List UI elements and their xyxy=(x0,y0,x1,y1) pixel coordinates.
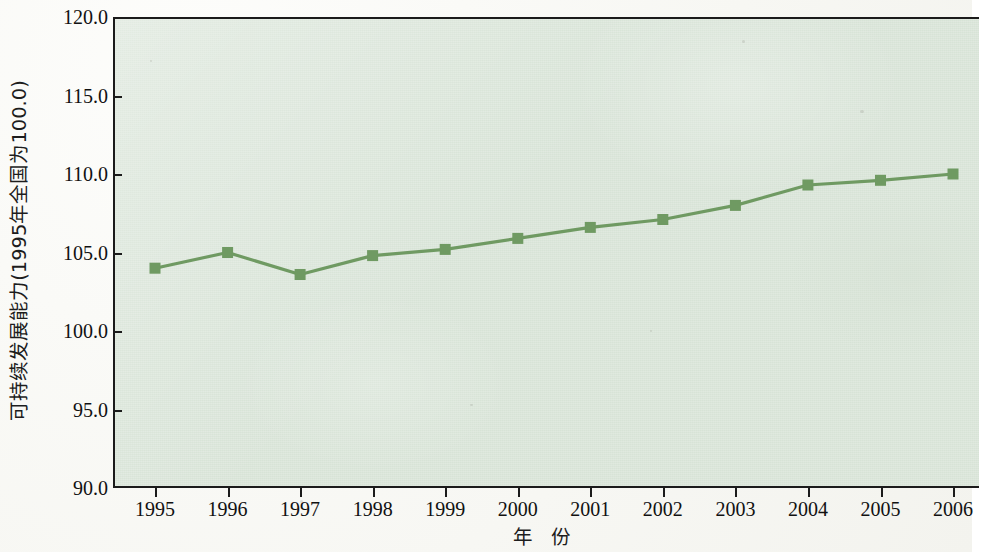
y-tick-label: 105.0 xyxy=(16,243,108,263)
plot-shading xyxy=(115,19,979,486)
plot-area xyxy=(113,17,979,488)
x-tick-mark xyxy=(663,488,665,497)
y-tick-mark xyxy=(113,253,122,255)
y-tick-label: 115.0 xyxy=(16,86,108,106)
x-tick-mark xyxy=(373,488,375,497)
x-tick-mark xyxy=(300,488,302,497)
y-axis-tick-labels: 90.095.0100.0105.0110.0115.0120.0 xyxy=(16,0,108,552)
y-tick-label: 100.0 xyxy=(16,321,108,341)
y-tick-mark xyxy=(113,174,122,176)
x-tick-mark xyxy=(735,488,737,497)
y-tick-label: 95.0 xyxy=(16,400,108,420)
x-tick-mark xyxy=(590,488,592,497)
y-tick-mark xyxy=(113,410,122,412)
x-tick-mark xyxy=(518,488,520,497)
plot-texture xyxy=(115,19,979,486)
y-tick-mark xyxy=(113,96,122,98)
x-tick-mark xyxy=(228,488,230,497)
x-tick-mark xyxy=(445,488,447,497)
y-tick-label: 120.0 xyxy=(16,7,108,27)
x-axis-title-text: 年 份 xyxy=(395,526,577,549)
x-tick-label: 2006 xyxy=(908,498,983,520)
y-tick-label: 90.0 xyxy=(16,478,108,498)
x-tick-mark xyxy=(953,488,955,497)
x-tick-mark xyxy=(881,488,883,497)
x-axis-title: 年 份 xyxy=(0,521,972,550)
x-tick-mark xyxy=(155,488,157,497)
y-tick-mark xyxy=(113,331,122,333)
x-tick-mark xyxy=(808,488,810,497)
y-tick-label: 110.0 xyxy=(16,164,108,184)
